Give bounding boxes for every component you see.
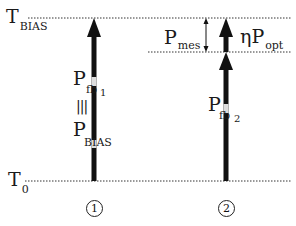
- p-bias-sub: BIAS: [84, 137, 112, 148]
- t0-main: T: [8, 168, 21, 190]
- column2-arrow: [219, 18, 233, 181]
- p-fb2-index: 2: [234, 114, 240, 124]
- t0-label: T0: [8, 170, 29, 189]
- p-fb1-main: P: [73, 67, 86, 89]
- p-mes-sub: mes: [178, 39, 201, 52]
- p-fb1-index: 1: [100, 88, 106, 98]
- p-fb2-sub: fb: [219, 110, 230, 121]
- t-bias-main: T: [6, 5, 19, 27]
- eta-symbol: η: [240, 25, 251, 47]
- p-mes-span-arrow: [204, 18, 209, 52]
- p-fb1-label: P: [73, 69, 86, 88]
- column2-marker: 2: [218, 200, 235, 217]
- p-mes-label: Pmes: [164, 28, 200, 47]
- p-opt-sub: opt: [265, 39, 283, 52]
- t-bias-label: TBIAS: [6, 7, 48, 26]
- equivalence-symbol: |||: [76, 99, 87, 113]
- column1-marker: 1: [86, 200, 103, 217]
- t-bias-sub: BIAS: [20, 20, 48, 33]
- t0-sub: 0: [22, 183, 29, 196]
- column1-arrow: [87, 18, 101, 181]
- p-opt-main: P: [251, 25, 264, 47]
- p-mes-main: P: [164, 26, 177, 48]
- eta-p-opt-label: ηPopt: [240, 27, 283, 46]
- p-fb1-sub: fb: [86, 84, 97, 95]
